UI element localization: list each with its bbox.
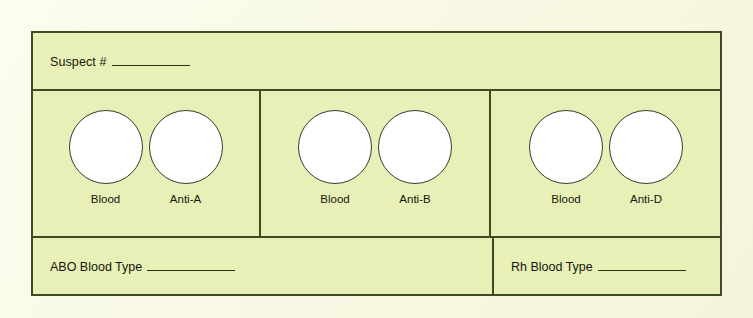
- well-unit-anti-d: Anti-D: [606, 110, 686, 205]
- blood-well-d[interactable]: [529, 110, 603, 184]
- worksheet-card: Suspect # Blood Anti-A Blood: [31, 31, 722, 296]
- well-unit-anti-b: Anti-B: [375, 110, 455, 205]
- anti-d-well[interactable]: [609, 110, 683, 184]
- rh-result-cell: Rh Blood Type: [492, 238, 720, 294]
- blood-well-a[interactable]: [69, 110, 143, 184]
- blood-well-b[interactable]: [298, 110, 372, 184]
- abo-blood-type-blank[interactable]: [147, 258, 235, 271]
- panel-abo-b: Blood Anti-B: [259, 91, 491, 236]
- abo-result-cell: ABO Blood Type: [33, 238, 492, 294]
- results-row: ABO Blood Type Rh Blood Type: [33, 236, 720, 294]
- suspect-label: Suspect #: [50, 55, 107, 69]
- suspect-field: Suspect #: [50, 53, 190, 69]
- panels-row: Blood Anti-A Blood Anti-B: [33, 91, 720, 236]
- well-unit-anti-a: Anti-A: [146, 110, 226, 205]
- header-row: Suspect #: [33, 33, 720, 91]
- anti-a-well[interactable]: [149, 110, 223, 184]
- panel-abo-a: Blood Anti-A: [33, 91, 258, 236]
- anti-a-well-label: Anti-A: [170, 193, 201, 205]
- well-pair-d: Blood Anti-D: [526, 110, 686, 205]
- panel-rh-d: Blood Anti-D: [492, 91, 720, 236]
- rh-blood-type-field: Rh Blood Type: [511, 258, 686, 274]
- well-unit-blood-a: Blood: [66, 110, 146, 205]
- blood-well-a-label: Blood: [91, 193, 120, 205]
- well-unit-blood-b: Blood: [295, 110, 375, 205]
- blood-well-b-label: Blood: [320, 193, 349, 205]
- anti-b-well-label: Anti-B: [399, 193, 430, 205]
- abo-blood-type-field: ABO Blood Type: [50, 258, 235, 274]
- rh-blood-type-label: Rh Blood Type: [511, 260, 593, 274]
- well-pair-a: Blood Anti-A: [66, 110, 226, 205]
- blood-well-d-label: Blood: [551, 193, 580, 205]
- well-pair-b: Blood Anti-B: [295, 110, 455, 205]
- anti-d-well-label: Anti-D: [630, 193, 662, 205]
- well-unit-blood-d: Blood: [526, 110, 606, 205]
- anti-b-well[interactable]: [378, 110, 452, 184]
- rh-blood-type-blank[interactable]: [598, 258, 686, 271]
- suspect-blank[interactable]: [112, 53, 190, 66]
- abo-blood-type-label: ABO Blood Type: [50, 260, 142, 274]
